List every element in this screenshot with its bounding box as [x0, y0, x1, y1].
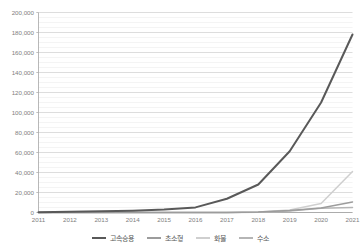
y-axis-tick-label: 80,000	[15, 129, 34, 136]
legend-item-label: 화물	[214, 235, 226, 242]
y-axis-tick-label: 40,000	[15, 169, 34, 176]
legend-swatch-icon	[92, 237, 106, 239]
x-axis-tick-label: 2011	[32, 216, 46, 223]
series-line	[39, 35, 353, 213]
legend-item[interactable]: 초소형	[147, 235, 183, 242]
chart-legend: 고속승용초소형화물수소	[0, 230, 360, 246]
legend-swatch-icon	[196, 237, 210, 239]
x-axis-tick-label: 2012	[63, 216, 77, 223]
y-axis-tick-label: 180,000	[12, 29, 35, 36]
x-axis-tick-label: 2015	[157, 216, 171, 223]
legend-item-label: 고속승용	[110, 235, 134, 242]
line-chart: 020,00040,00060,00080,000100,000120,0001…	[0, 0, 360, 250]
y-axis-tick-labels: 020,00040,00060,00080,000100,000120,0001…	[12, 9, 35, 216]
x-axis-tick-label: 2014	[126, 216, 140, 223]
plot-area: 020,00040,00060,00080,000100,000120,0001…	[0, 0, 360, 222]
x-axis-tick-label: 2018	[251, 216, 265, 223]
y-axis-tick-label: 60,000	[15, 149, 34, 156]
legend-item[interactable]: 고속승용	[92, 235, 134, 242]
data-series-lines	[39, 35, 353, 213]
legend-swatch-icon	[239, 237, 253, 239]
legend-item-label: 수소	[257, 235, 269, 242]
x-axis-tick-label: 2013	[94, 216, 108, 223]
y-axis-tick-label: 20,000	[15, 189, 34, 196]
y-axis-tick-label: 160,000	[12, 49, 35, 56]
x-axis-tick-label: 2019	[283, 216, 297, 223]
legend-item[interactable]: 수소	[239, 235, 269, 242]
x-axis-tick-label: 2021	[346, 216, 360, 223]
x-axis-tick-label: 2020	[314, 216, 328, 223]
legend-swatch-icon	[147, 237, 161, 239]
y-axis-tick-label: 140,000	[12, 69, 35, 76]
legend-item[interactable]: 화물	[196, 235, 226, 242]
y-axis-tick-label: 120,000	[12, 89, 35, 96]
legend-item-label: 초소형	[165, 235, 183, 242]
y-axis-tick-label: 200,000	[12, 9, 35, 16]
x-axis-tick-label: 2016	[189, 216, 203, 223]
y-axis-tick-label: 100,000	[12, 109, 35, 116]
x-axis-tick-labels: 2011201220132014201520162017201820192020…	[32, 216, 360, 223]
x-axis-tick-label: 2017	[220, 216, 234, 223]
chart-canvas: 020,00040,00060,00080,000100,000120,0001…	[0, 0, 360, 222]
